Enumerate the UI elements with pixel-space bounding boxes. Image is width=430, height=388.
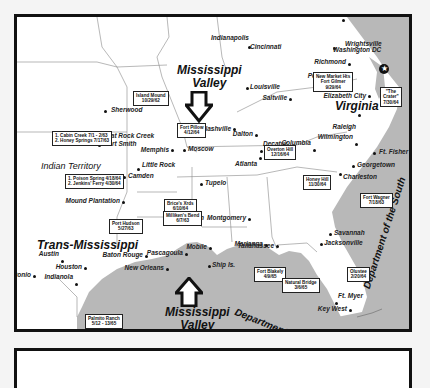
city-label-tupelo: Tupelo <box>205 180 226 187</box>
city-marker-decatur <box>260 150 263 153</box>
city-label-washington-dc: Washington DC <box>333 47 381 54</box>
battle-palmito-ranch: Palmito Ranch5/12 - 13/65 <box>85 314 123 329</box>
city-label-key-west: Key West <box>318 306 347 313</box>
city-marker-richmond <box>348 63 351 66</box>
city-label-new-orleans: New Orleans <box>125 265 164 272</box>
city-marker-new-orleans <box>166 268 169 271</box>
city-marker-memphis <box>171 149 174 152</box>
city-marker-indianapolis <box>208 14 211 16</box>
battle-island-mound: Island Mound10/29/62 <box>133 91 169 106</box>
battle-olustee: Olustee2/20/64 <box>347 267 370 282</box>
city-marker-georgetown <box>352 165 355 168</box>
city-label-saltville: Saltville <box>262 95 287 102</box>
city-label-indianapolis: Indianapolis <box>211 35 249 42</box>
city-label-memphis: Memphis <box>141 147 169 154</box>
city-label-baton-rouge: Baton Rouge <box>103 252 143 259</box>
city-label-moscow: Moscow <box>188 146 214 153</box>
city-marker-tallahassee <box>276 245 279 248</box>
city-label-flat-rock-creek: Flat Rock Creek <box>105 133 154 140</box>
city-marker-key-west <box>349 309 352 312</box>
battle-honey-hill: Honey Hill11/30/64 <box>303 175 331 190</box>
city-label-little-rock: Little Rock <box>142 162 175 169</box>
region-mississippi-valley-north: Mississippi Valley <box>177 64 242 89</box>
city-marker-wrightsville <box>342 19 345 22</box>
battle-poison-spring-jenkins-ferry: 1. Poison Spring 4/18/642. Jenkins' Ferr… <box>65 174 124 189</box>
caption-panel <box>14 348 412 388</box>
battle-port-hudson: Port Hudson5/27/63 <box>109 219 143 234</box>
city-marker-columbia <box>313 149 316 152</box>
city-label-austin: Austin <box>39 251 59 258</box>
civil-war-map: Mississippi Valley Virginia Trans-Missis… <box>14 14 412 332</box>
battle-fort-pillow: Fort Pillow4/12/64 <box>177 123 206 138</box>
city-label-dalton: Dalton <box>233 131 253 138</box>
city-marker-jacksonville <box>320 243 323 246</box>
city-marker-saltville <box>289 98 292 101</box>
arrow-up-icon <box>175 277 203 307</box>
battle-fort-wagner: Fort Wagner7/18/63 <box>360 193 393 208</box>
city-label-mound-plantation: Mound Plantation <box>65 198 120 205</box>
region-mississippi-valley-south: Mississippi Valley <box>165 306 230 331</box>
city-label-tallahassee: Tallahassee <box>237 243 274 250</box>
city-label-mobile: Mobile <box>186 244 207 251</box>
city-label-cincinnati: Cincinnati <box>250 44 281 51</box>
city-label-charleston: Charleston <box>343 174 377 181</box>
battle-the-crater: "TheCrater"7/30/64 <box>380 87 402 107</box>
city-label-elizabeth-city: Elizabeth City <box>323 93 366 100</box>
city-marker-mobile <box>209 247 212 250</box>
city-label-jacksonville: Jacksonville <box>324 240 363 247</box>
city-marker-raleigh <box>358 114 361 117</box>
arrow-down-icon <box>185 91 213 123</box>
city-marker-charleston <box>339 173 342 176</box>
city-label-ship-is: Ship Is. <box>212 262 235 269</box>
battle-natural-bridge: Natural Bridge3/6/65 <box>282 278 320 293</box>
city-label-nashville: Nashville <box>202 126 231 133</box>
city-marker-indianola <box>75 283 78 286</box>
battle-new-market-heights: New Market HtsFort Gilmer9/29/64 <box>313 72 353 92</box>
city-marker-atlanta <box>259 157 262 160</box>
city-marker-savannah <box>329 233 332 236</box>
city-label-camden: Camden <box>128 173 154 180</box>
city-label-sherwood: Sherwood <box>111 107 142 114</box>
city-marker-dalton <box>255 134 258 137</box>
city-label-ft-myer: Ft. Myer <box>338 293 363 300</box>
city-marker-ship-is <box>208 265 211 268</box>
city-label-raleigh: Raleigh <box>333 124 356 131</box>
city-label-richmond: Richmond <box>314 59 346 66</box>
city-marker-louisville <box>246 87 249 90</box>
city-label-louisville: Louisville <box>250 84 280 91</box>
city-marker-houston <box>84 267 87 270</box>
city-marker-sherwood <box>104 110 107 113</box>
city-marker-little-rock <box>137 168 140 171</box>
region-virginia: Virginia <box>335 100 379 113</box>
region-indian-territory: Indian Territory <box>41 162 101 171</box>
city-marker-ft-fisher <box>373 152 376 155</box>
city-label-wilmington: Wilmington <box>318 134 353 141</box>
city-marker-mound-plantation <box>122 201 125 204</box>
city-marker-montgomery <box>248 218 251 221</box>
capital-star-icon: ★ <box>379 64 389 74</box>
city-marker-wilmington <box>355 143 358 146</box>
city-marker-san-antonio <box>33 275 36 278</box>
city-marker-elizabeth-city <box>368 95 371 98</box>
battle-cabin-creek-honey-springs: 1. Cabin Creek 7/1 - 2/632. Honey Spring… <box>52 131 112 146</box>
city-marker-moscow <box>183 149 186 152</box>
city-marker-tupelo <box>200 183 203 186</box>
city-label-san-antonio: San Antonio <box>14 272 31 279</box>
city-label-atlanta: Atlanta <box>235 161 257 168</box>
city-marker-pascagoula <box>185 253 188 256</box>
city-label-houston: Houston <box>56 264 82 271</box>
city-label-pascagoula: Pascagoula <box>147 250 183 257</box>
city-label-ft-fisher: Ft. Fisher <box>379 149 408 156</box>
battle-millikens-bend: Milliken's Bend6/7/63 <box>163 211 202 226</box>
battle-overton-hill: Overton Hill12/16/64 <box>264 145 296 160</box>
city-label-georgetown: Georgetown <box>357 162 395 169</box>
city-label-savannah: Savannah <box>334 230 365 237</box>
city-label-indianola: Indianola <box>44 274 73 281</box>
city-label-montgomery: Montgomery <box>207 215 246 222</box>
